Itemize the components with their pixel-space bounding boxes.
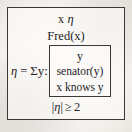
drs-inner-box: y senator(y) x knows y	[49, 45, 111, 97]
cardinality-right-bar: |	[61, 100, 64, 114]
drs-inner-condition-senator: senator(y)	[50, 66, 110, 78]
cardinality-value: 2	[74, 100, 80, 114]
drs-condition-fred: Fred(x)	[8, 30, 124, 43]
figure-canvas: xη Fred(x) η=Σy: y senator(y) x knows y …	[0, 0, 132, 132]
drs-inner-referent: y	[50, 50, 110, 62]
drs-referent-x: x	[58, 12, 65, 26]
scan-speck	[3, 63, 5, 65]
drs-sum-variable: η	[11, 64, 17, 78]
drs-inner-condition-knows: x knows y	[50, 82, 110, 94]
cardinality-relation-sign: ≥	[65, 100, 72, 114]
drs-sigma-operator: Σy:	[30, 63, 48, 78]
drs-outer-box: xη Fred(x) η=Σy: y senator(y) x knows y …	[7, 7, 125, 120]
drs-cardinality-condition: |η|≥2	[8, 101, 124, 114]
drs-sum-condition-row: η=Σy: y senator(y) x knows y	[8, 45, 124, 97]
drs-referent-line: xη	[8, 13, 124, 26]
drs-referent-eta: η	[67, 12, 74, 26]
drs-sum-equals-sign: =	[20, 64, 27, 78]
drs-sum-operator-label: η=Σy:	[8, 64, 48, 78]
